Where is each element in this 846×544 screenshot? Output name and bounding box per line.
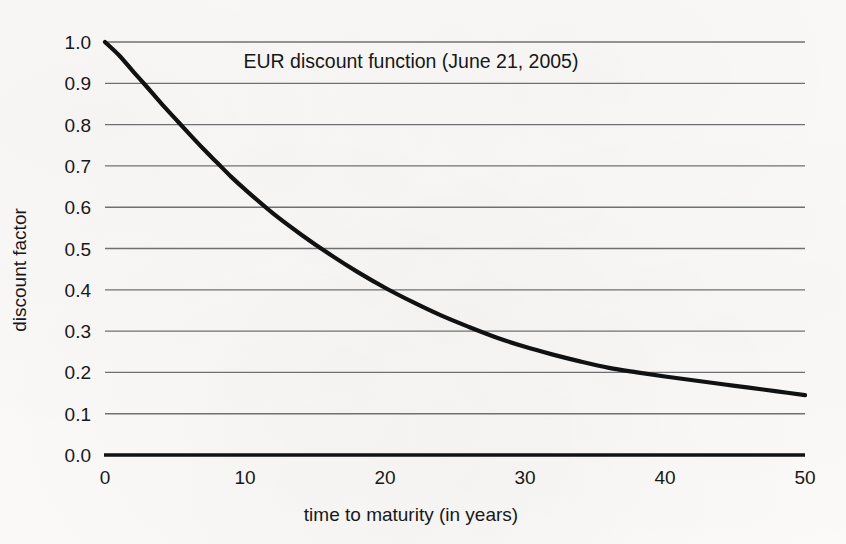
x-tick-label: 30 (514, 467, 535, 488)
y-tick-label: 0.7 (65, 156, 91, 177)
y-tick-label: 0.3 (65, 321, 91, 342)
y-axis-tick-labels: 0.00.10.20.30.40.50.60.70.80.91.0 (65, 32, 92, 466)
y-gridlines (105, 42, 805, 414)
y-tick-label: 0.1 (65, 404, 91, 425)
y-tick-label: 0.0 (65, 445, 91, 466)
y-axis-title: discount factor (9, 208, 30, 332)
x-tick-label: 0 (100, 467, 111, 488)
y-tick-label: 1.0 (65, 32, 91, 53)
chart-title: EUR discount function (June 21, 2005) (244, 50, 579, 72)
chart-canvas: 0.00.10.20.30.40.50.60.70.80.91.0 010203… (0, 0, 846, 544)
x-tick-label: 10 (234, 467, 255, 488)
x-axis-title: time to maturity (in years) (304, 504, 518, 525)
discount-function-chart: 0.00.10.20.30.40.50.60.70.80.91.0 010203… (0, 0, 846, 544)
x-axis-tick-labels: 01020304050 (100, 467, 816, 488)
y-tick-label: 0.6 (65, 197, 91, 218)
y-tick-label: 0.9 (65, 73, 91, 94)
x-tick-label: 50 (794, 467, 815, 488)
y-tick-label: 0.5 (65, 239, 91, 260)
y-tick-label: 0.4 (65, 280, 92, 301)
series-group (105, 42, 805, 395)
y-tick-label: 0.8 (65, 115, 91, 136)
discount-factor-curve (105, 42, 805, 395)
x-tick-label: 20 (374, 467, 395, 488)
y-tick-label: 0.2 (65, 362, 91, 383)
x-tick-label: 40 (654, 467, 675, 488)
